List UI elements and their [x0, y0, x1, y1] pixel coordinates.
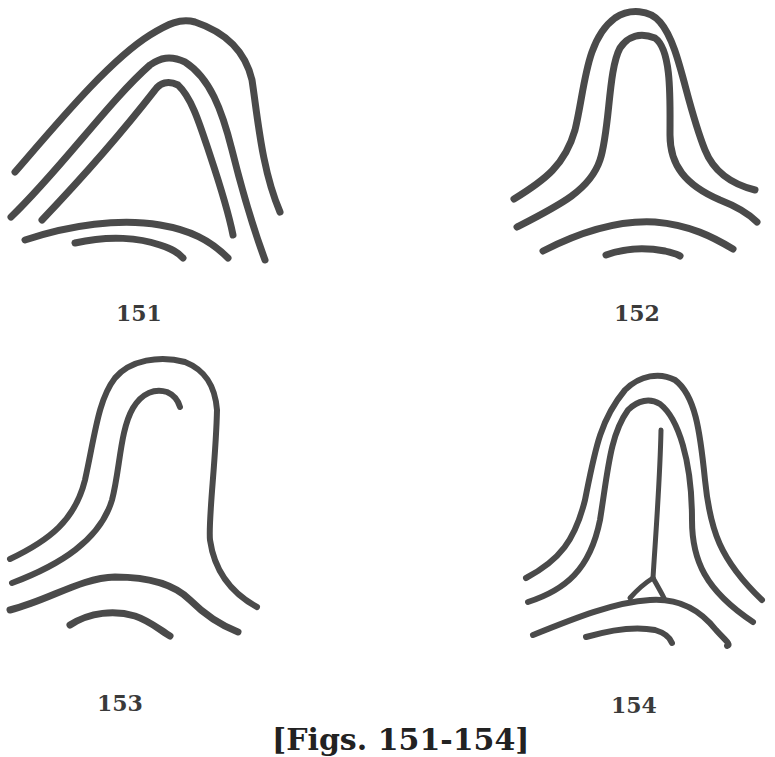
ridge-154-delta-right: [653, 578, 664, 598]
ridge-151-lower-2: [75, 238, 183, 258]
ridge-153-lower-1: [10, 577, 238, 632]
ridge-153-lower-2: [70, 613, 170, 636]
figure-label-154: 154: [611, 692, 657, 718]
ridge-154-delta-left: [630, 578, 653, 598]
ridge-154-outer: [526, 376, 762, 600]
ridge-154-lower-2: [586, 628, 672, 643]
figure-caption: [Figs. 151-154]: [272, 722, 530, 757]
figure-154-drawing: [526, 376, 762, 646]
figure-152-drawing: [514, 12, 757, 256]
figure-label-153: 153: [97, 690, 143, 716]
ridge-152-inner: [517, 35, 757, 227]
ridge-152-lower-2: [606, 249, 680, 256]
figure-label-151: 151: [116, 300, 162, 326]
figure-151-drawing: [11, 21, 280, 260]
ridge-154-lower-1: [533, 600, 729, 646]
ridge-154-central: [653, 430, 661, 578]
figure-label-152: 152: [614, 300, 660, 326]
figure-153-drawing: [10, 359, 257, 636]
